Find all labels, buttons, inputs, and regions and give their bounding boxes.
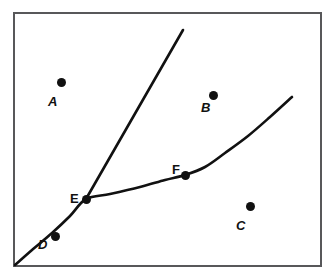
- point-label-b: B: [201, 101, 210, 114]
- point-label-f: F: [172, 163, 180, 176]
- data-point-dot-d: [51, 232, 60, 241]
- point-label-a: A: [48, 95, 57, 108]
- upper-straight-line: [86, 30, 183, 199]
- data-point-dot-c: [246, 202, 255, 211]
- figure-root: · · · ABCDEF: [0, 0, 331, 280]
- point-label-d: D: [38, 238, 47, 251]
- curve-layer: [0, 0, 331, 280]
- point-label-c: C: [236, 219, 245, 232]
- data-point-dot-e: [82, 195, 91, 204]
- data-point-dot-a: [57, 78, 66, 87]
- data-point-dot-f: [181, 171, 190, 180]
- data-point-dot-b: [209, 91, 218, 100]
- point-label-e: E: [70, 192, 79, 205]
